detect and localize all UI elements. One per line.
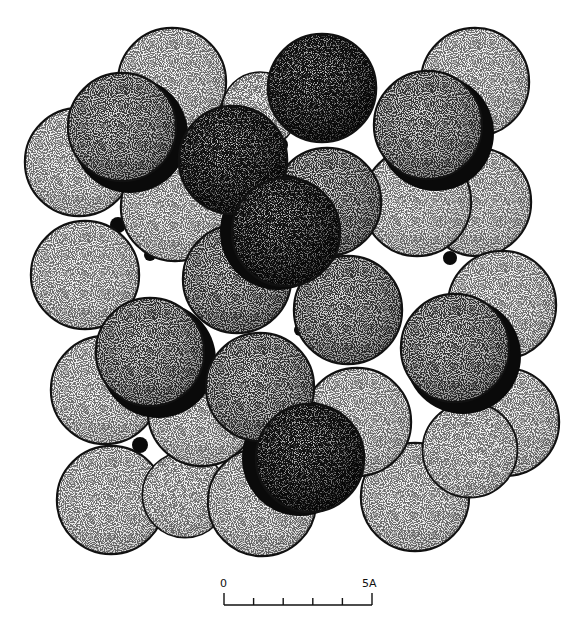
sphere [96, 298, 204, 406]
scale-start-label: 0 [220, 577, 227, 590]
sphere [401, 294, 509, 402]
sphere [68, 73, 176, 181]
sphere-dark [268, 34, 376, 142]
scale-bar [224, 593, 372, 605]
scale-end-label: 5A [362, 577, 377, 590]
sphere-packing-diagram: 0 5A [0, 0, 581, 626]
sphere-dark [256, 404, 364, 512]
sphere-dark [232, 178, 340, 286]
sphere [374, 71, 482, 179]
sphere [423, 403, 518, 498]
